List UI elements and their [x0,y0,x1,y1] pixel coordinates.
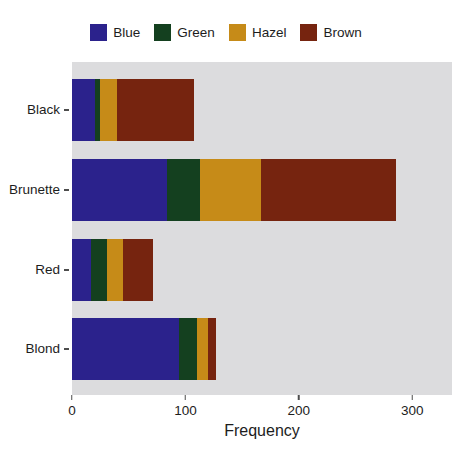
y-tick-blond: Blond [25,341,72,357]
x-tick-300: 300 [401,395,424,418]
legend-label: Brown [323,24,361,41]
x-axis-title: Frequency [72,422,452,440]
legend-label: Blue [113,24,140,41]
bar-segment-brunette-brown[interactable] [261,159,396,221]
legend-swatch-green-icon [154,24,171,41]
bar-blond[interactable] [72,318,216,380]
x-tick-label: 100 [174,403,197,418]
x-tick-label: 200 [288,403,311,418]
bar-segment-black-hazel[interactable] [100,79,117,141]
bar-segment-black-brown[interactable] [117,79,194,141]
bar-segment-blond-blue[interactable] [72,318,179,380]
y-tick-label: Black [27,102,60,118]
y-tick-mark [64,269,69,270]
x-tick-0: 0 [68,395,76,418]
bar-segment-red-brown[interactable] [123,239,152,301]
bar-segment-brunette-green[interactable] [167,159,200,221]
chart-figure: BlueGreenHazelBrown BlackBrunetteRedBlon… [0,0,452,455]
x-tick-mark [71,395,72,400]
legend-swatch-brown-icon [300,24,317,41]
bar-segment-red-green[interactable] [91,239,107,301]
x-tick-label: 0 [68,403,76,418]
legend-item-brown[interactable]: Brown [300,24,361,41]
y-tick-mark [64,348,69,349]
legend-swatch-hazel-icon [229,24,246,41]
legend-label: Green [177,24,215,41]
plot-panel [72,62,452,395]
y-tick-black: Black [27,102,72,118]
y-tick-mark [64,109,69,110]
x-axis: 0100200300 [72,395,452,421]
bar-segment-red-hazel[interactable] [107,239,123,301]
legend-item-green[interactable]: Green [154,24,215,41]
bar-segment-brunette-hazel[interactable] [200,159,261,221]
bar-brunette[interactable] [72,159,396,221]
bar-segment-red-blue[interactable] [72,239,91,301]
chart-legend: BlueGreenHazelBrown [0,20,452,44]
bar-segment-blond-hazel[interactable] [197,318,208,380]
y-tick-label: Brunette [9,182,60,198]
y-axis: BlackBrunetteRedBlond [0,62,72,395]
legend-label: Hazel [252,24,287,41]
y-tick-label: Red [35,262,60,278]
x-tick-200: 200 [288,395,311,418]
legend-item-blue[interactable]: Blue [90,24,140,41]
bar-red[interactable] [72,239,153,301]
y-tick-red: Red [35,262,72,278]
bar-segment-blond-brown[interactable] [208,318,216,380]
y-tick-brunette: Brunette [9,182,72,198]
x-tick-100: 100 [174,395,197,418]
bar-black[interactable] [72,79,194,141]
bar-segment-brunette-blue[interactable] [72,159,167,221]
x-tick-mark [185,395,186,400]
legend-swatch-blue-icon [90,24,107,41]
y-tick-mark [64,189,69,190]
bar-segment-blond-green[interactable] [179,318,197,380]
x-tick-mark [298,395,299,400]
y-tick-label: Blond [25,341,60,357]
bar-segment-black-blue[interactable] [72,79,95,141]
x-tick-mark [412,395,413,400]
legend-item-hazel[interactable]: Hazel [229,24,287,41]
x-tick-label: 300 [401,403,424,418]
